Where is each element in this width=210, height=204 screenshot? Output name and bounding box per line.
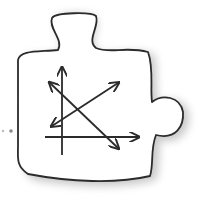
- connector-dots: [2, 129, 13, 133]
- puzzle-chart-illustration: [0, 0, 210, 204]
